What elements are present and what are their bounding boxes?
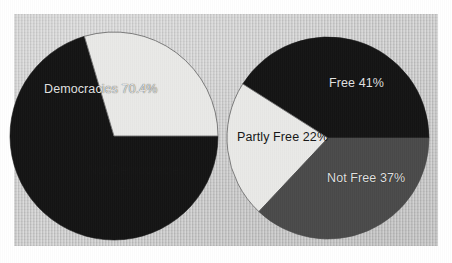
pie-label-democracies: Democracies 70.4% bbox=[44, 82, 158, 97]
freedom-pie-svg bbox=[0, 0, 452, 263]
pie-label-free: Free 41% bbox=[329, 76, 384, 91]
freedom-pie-chart bbox=[0, 0, 452, 263]
figure-root: Democracies 70.4% Not Democracies 29.6% … bbox=[0, 0, 452, 263]
pie-label-partly-free: Partly Free 22% bbox=[237, 130, 328, 145]
pie-label-not-democracies-value: 29.6% bbox=[88, 178, 185, 193]
pie-label-not-democracies: Not Democracies 29.6% bbox=[88, 163, 185, 193]
pie-label-not-democracies-name: Not Democracies bbox=[88, 163, 185, 177]
pie-label-not-free: Not Free 37% bbox=[327, 171, 405, 186]
